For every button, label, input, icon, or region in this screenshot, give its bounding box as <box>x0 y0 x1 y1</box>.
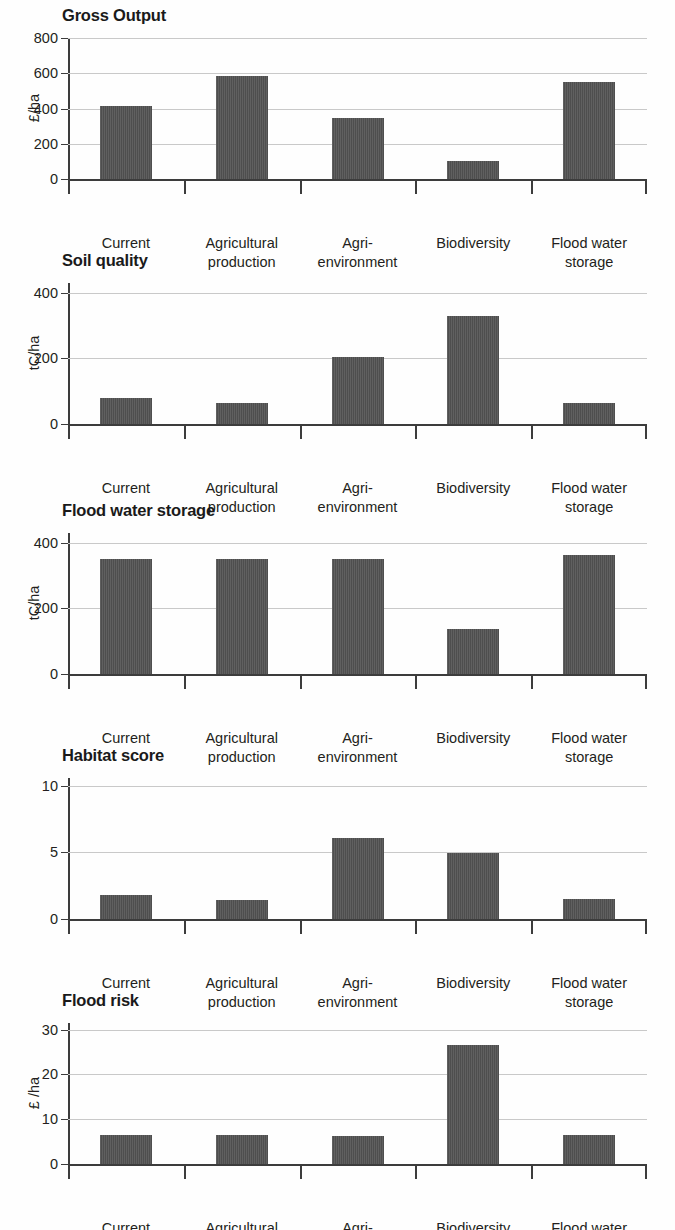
x-axis-line <box>68 424 647 426</box>
bar <box>100 106 152 179</box>
x-axis-line <box>68 1164 647 1166</box>
x-category-label: Current <box>68 1219 184 1230</box>
y-tick-label: 0 <box>50 912 58 927</box>
y-tick-label: 10 <box>42 1112 58 1127</box>
x-tick-mark <box>531 1166 533 1179</box>
bar <box>447 316 499 424</box>
x-tick-mark <box>68 426 70 439</box>
y-tick-label: 0 <box>50 1157 58 1172</box>
y-axis-label: £/ha <box>26 78 42 138</box>
y-tick-mark <box>61 1164 68 1165</box>
x-category-label: Agri- environment <box>300 1219 416 1230</box>
bar <box>100 398 152 424</box>
chart-title: Flood water storage <box>62 501 215 520</box>
y-tick-label: 0 <box>50 417 58 432</box>
x-tick-mark <box>184 426 186 439</box>
plot-area: 0200400tC/haCurrentAgricultural producti… <box>68 283 647 426</box>
chart-title: Habitat score <box>62 746 164 765</box>
x-tick-mark <box>68 921 70 934</box>
x-tick-mark <box>645 676 647 689</box>
x-tick-mark <box>300 1166 302 1179</box>
bar <box>447 1045 499 1165</box>
chart-title: Gross Output <box>62 6 166 25</box>
plot-area: 0200400tC/haCurrentAgricultural producti… <box>68 533 647 676</box>
chart-panel: Flood water storage0200400tC/haCurrentAg… <box>0 495 675 740</box>
chart-panel: Habitat score0510CurrentAgricultural pro… <box>0 740 675 985</box>
y-tick-mark <box>61 358 68 359</box>
gridline <box>68 109 647 110</box>
bar <box>332 1136 384 1164</box>
y-axis-line <box>68 778 70 921</box>
y-tick-mark <box>61 73 68 74</box>
y-tick-mark <box>61 1030 68 1031</box>
x-tick-mark <box>531 181 533 194</box>
chart-title: Soil quality <box>62 251 148 270</box>
x-tick-mark <box>645 1166 647 1179</box>
x-tick-mark <box>415 921 417 934</box>
x-tick-mark <box>531 921 533 934</box>
x-tick-mark <box>300 676 302 689</box>
bar <box>332 357 384 424</box>
x-tick-mark <box>184 676 186 689</box>
y-tick-mark <box>61 424 68 425</box>
y-axis-label: tC/ha <box>26 573 42 633</box>
x-tick-mark <box>415 676 417 689</box>
figure-multi-panel-bar-charts: Gross Output0200400600800£/haCurrentAgri… <box>0 0 675 1230</box>
plot-area: 0510CurrentAgricultural productionAgri- … <box>68 778 647 921</box>
bar <box>447 629 499 674</box>
x-axis-line <box>68 674 647 676</box>
bar <box>563 403 615 424</box>
gridline <box>68 786 647 787</box>
chart-panel: Flood risk0102030£ /haCurrentAgricultura… <box>0 985 675 1230</box>
y-tick-mark <box>61 674 68 675</box>
y-tick-label: 800 <box>34 31 58 46</box>
gridline <box>68 1074 647 1075</box>
x-tick-mark <box>68 1166 70 1179</box>
y-tick-mark <box>61 179 68 180</box>
y-axis-label: £ /ha <box>26 1063 42 1123</box>
bar <box>332 838 384 919</box>
y-axis-line <box>68 533 70 676</box>
x-tick-mark <box>68 181 70 194</box>
x-tick-mark <box>68 676 70 689</box>
plot-area: 0200400600800£/haCurrentAgricultural pro… <box>68 38 647 181</box>
x-tick-mark <box>531 676 533 689</box>
x-category-label: Flood water storage <box>531 1219 647 1230</box>
y-tick-label: 400 <box>34 536 58 551</box>
bar <box>447 853 499 920</box>
y-tick-label: 20 <box>42 1067 58 1082</box>
y-tick-mark <box>61 852 68 853</box>
bar <box>447 161 499 179</box>
y-tick-mark <box>61 543 68 544</box>
y-axis-line <box>68 38 70 181</box>
y-tick-mark <box>61 608 68 609</box>
y-tick-label: 30 <box>42 1022 58 1037</box>
y-tick-label: 200 <box>34 137 58 152</box>
y-axis-line <box>68 283 70 426</box>
bar <box>216 403 268 424</box>
gridline <box>68 38 647 39</box>
y-axis-label: tC/ha <box>26 323 42 383</box>
bar <box>332 118 384 179</box>
y-tick-mark <box>61 109 68 110</box>
x-category-label: Agricultural production <box>184 1219 300 1230</box>
x-tick-mark <box>184 1166 186 1179</box>
y-tick-mark <box>61 1119 68 1120</box>
x-tick-mark <box>184 181 186 194</box>
gridline <box>68 1119 647 1120</box>
x-tick-mark <box>300 181 302 194</box>
y-tick-mark <box>61 1074 68 1075</box>
bar <box>563 1135 615 1164</box>
x-axis-line <box>68 919 647 921</box>
bar <box>216 900 268 919</box>
x-tick-mark <box>415 181 417 194</box>
chart-panel: Gross Output0200400600800£/haCurrentAgri… <box>0 0 675 245</box>
bar <box>100 559 152 674</box>
y-tick-mark <box>61 786 68 787</box>
gridline <box>68 293 647 294</box>
plot-area: 0102030£ /haCurrentAgricultural producti… <box>68 1023 647 1166</box>
y-tick-label: 0 <box>50 667 58 682</box>
x-tick-mark <box>300 426 302 439</box>
bar <box>100 895 152 919</box>
y-tick-mark <box>61 293 68 294</box>
